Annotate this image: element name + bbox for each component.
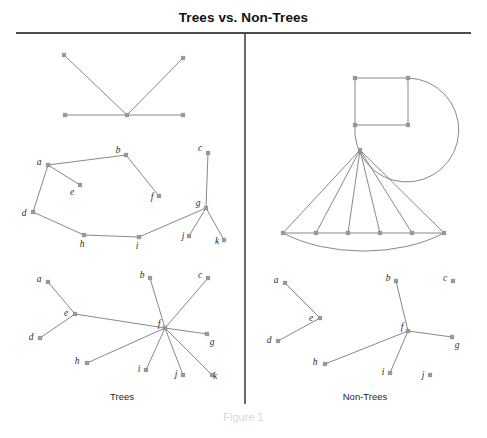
graph-node-g [204,206,208,210]
graph-node-c [206,151,210,155]
graph-edge [283,150,360,233]
graph-nontree-square-with-arc [353,76,459,182]
node-label-d: d [29,332,34,342]
graph-node-b [148,276,152,280]
graph-edge [165,328,183,375]
node-label-c: c [198,270,203,280]
graph-edge [87,328,165,363]
graph-node [62,53,66,57]
graph-node-d [276,339,280,343]
graph-edge [64,55,127,115]
graph-edge [206,153,208,208]
graph-edge [33,165,48,212]
graph-nontree-forest: abcdefghij [267,273,460,380]
graph-edge [348,150,360,233]
node-label-i: i [138,364,141,374]
node-label-h: h [313,357,318,367]
node-label-g: g [210,337,215,347]
node-label-b: b [116,145,121,155]
graph-node-b [124,153,128,157]
graph-node [358,148,362,152]
graph-edge [48,282,75,314]
graph-edge [360,150,444,233]
graph-node-g [450,335,454,339]
node-label-b: b [386,273,391,283]
graph-node [353,76,357,80]
graph-node [63,113,67,117]
graph-edge [139,208,206,237]
node-label-k: k [215,236,220,246]
node-label-e: e [64,308,68,318]
node-label-f: f [151,192,155,202]
panel-caption-trees: Trees [80,391,164,402]
graph-edge [316,150,360,233]
node-label-a: a [37,274,42,284]
graph-node-h [82,233,86,237]
node-label-g: g [455,340,460,350]
graph-node-c [451,279,455,283]
graph-node-h [323,362,327,366]
node-label-d: d [22,208,27,218]
graph-edge [33,212,84,235]
figure-number: Figure 1 [0,411,487,423]
node-label-g: g [196,198,201,208]
graph-canvas: abcdefghijkabcdefghijkabcdefghij [0,0,487,438]
graph-tree-double-star-ef: abcdefghijk [29,270,218,381]
graph-node-e [318,316,322,320]
graph-node-f [157,194,161,198]
node-label-j: j [173,369,178,379]
node-label-j: j [180,231,185,241]
node-label-b: b [140,270,145,280]
graph-edge [189,208,206,236]
graph-edge [48,155,126,165]
node-label-i: i [382,367,385,377]
node-label-a: a [37,157,42,167]
graph-node-f [406,329,410,333]
graph-node [378,231,382,235]
graph-node [346,231,350,235]
graph-edge [360,150,412,233]
graph-edge [165,278,208,328]
graph-node-h [85,361,89,365]
figure-container: Trees vs. Non-Trees abcdefghijkabcdefghi… [0,0,487,438]
node-label-c: c [443,273,448,283]
graph-edge [84,235,139,237]
graph-edge [360,150,380,233]
graph-tree-labeled-abcdefghijk: abcdefghijk [22,143,226,251]
node-label-f: f [401,322,405,332]
graph-node-d [38,336,42,340]
node-label-i: i [136,241,139,251]
graph-node-d [31,210,35,214]
graph-edge [146,328,165,370]
node-label-a: a [274,275,279,285]
graph-node-e [73,312,77,316]
graph-node-k [222,238,226,242]
graph-node-i [144,368,148,372]
graph-node [442,231,446,235]
graph-edge-arc [283,233,444,251]
graph-node-j [181,373,185,377]
graph-edge [408,331,452,337]
graph-node-j [428,373,432,377]
graph-nontree-fan-cycle [281,148,446,251]
graph-edge [48,165,80,185]
graph-node [314,231,318,235]
node-label-e: e [309,313,313,323]
graph-edge [165,328,207,334]
node-label-c: c [198,143,203,153]
graph-node-a [46,163,50,167]
graph-node-f [163,326,167,330]
graph-tree-star-5 [62,53,185,117]
graph-node-a [283,281,287,285]
graph-edge [126,155,159,196]
node-label-k: k [213,371,218,381]
node-label-e: e [70,187,74,197]
graph-node [181,113,185,117]
node-label-h: h [80,239,85,249]
graph-node-i [137,235,141,239]
graph-node [181,56,185,60]
node-label-j: j [420,370,425,380]
graph-node [125,113,129,117]
graph-edge [285,283,320,318]
graphs-layer: abcdefghijkabcdefghijkabcdefghij [22,53,460,381]
